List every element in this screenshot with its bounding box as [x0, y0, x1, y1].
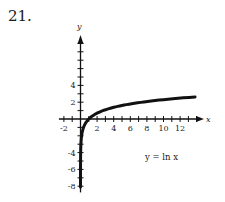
x-tick-label: 2	[95, 124, 100, 133]
x-tick-label: 10	[158, 124, 168, 133]
ln-curve	[81, 97, 196, 187]
x-tick-label: 6	[128, 124, 133, 133]
y-axis-arrow-icon	[78, 35, 84, 44]
y-axis-label: y	[76, 22, 82, 31]
x-axis-label: x	[206, 115, 211, 124]
y-tick-label: -4	[68, 149, 76, 158]
x-tick-label: 4	[111, 124, 116, 133]
y-tick-label: 2	[70, 98, 75, 107]
y-tick-label: -8	[68, 182, 76, 191]
y-tick-label: 4	[70, 81, 75, 90]
x-tick-label: 8	[144, 124, 149, 133]
ticks	[64, 43, 197, 186]
ln-x-graph: -22468101242-4-6-8 x y y = ln x	[0, 0, 225, 202]
x-tick-label: 12	[175, 124, 185, 133]
y-tick-label: -6	[68, 165, 76, 174]
x-tick-label: -2	[60, 124, 68, 133]
equation-annotation: y = ln x	[144, 152, 178, 162]
